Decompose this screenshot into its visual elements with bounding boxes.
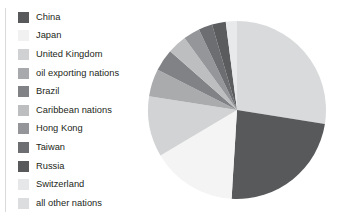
legend-item[interactable]: Brazil bbox=[6, 82, 136, 101]
legend-item-label: all other nations bbox=[36, 198, 102, 209]
legend-item-label: Caribbean nations bbox=[36, 105, 112, 116]
legend-item[interactable]: Japan bbox=[6, 27, 136, 46]
legend-swatch-icon bbox=[18, 68, 29, 79]
legend-swatch-icon bbox=[18, 12, 29, 23]
legend-swatch-icon bbox=[18, 179, 29, 190]
pie-chart-figure: China Japan United Kingdom oil exporting… bbox=[0, 0, 342, 219]
pie-slice[interactable] bbox=[232, 110, 325, 199]
legend-item-label: oil exporting nations bbox=[36, 68, 119, 79]
legend-item[interactable]: oil exporting nations bbox=[6, 64, 136, 83]
pie-chart bbox=[140, 12, 336, 208]
legend-item[interactable]: China bbox=[6, 8, 136, 27]
legend-item-label: China bbox=[36, 12, 60, 23]
legend-item-label: United Kingdom bbox=[36, 49, 102, 60]
legend-item-label: Japan bbox=[36, 30, 61, 41]
pie-slice[interactable] bbox=[237, 21, 326, 124]
legend-item-label: Russia bbox=[36, 161, 65, 172]
legend-swatch-icon bbox=[18, 49, 29, 60]
legend-item-label: Brazil bbox=[36, 86, 59, 97]
legend-swatch-icon bbox=[18, 86, 29, 97]
legend-swatch-icon bbox=[18, 142, 29, 153]
legend-item-label: Hong Kong bbox=[36, 123, 83, 134]
legend-item[interactable]: all other nations bbox=[6, 194, 136, 213]
legend-item-label: Taiwan bbox=[36, 142, 65, 153]
legend-swatch-icon bbox=[18, 30, 29, 41]
legend-swatch-icon bbox=[18, 105, 29, 116]
pie-svg bbox=[140, 12, 336, 208]
legend-item[interactable]: Taiwan bbox=[6, 138, 136, 157]
legend-swatch-icon bbox=[18, 123, 29, 134]
legend-item[interactable]: Caribbean nations bbox=[6, 101, 136, 120]
legend-swatch-icon bbox=[18, 161, 29, 172]
legend-swatch-icon bbox=[18, 198, 29, 209]
chart-legend: China Japan United Kingdom oil exporting… bbox=[5, 8, 136, 212]
legend-item[interactable]: Russia bbox=[6, 157, 136, 176]
legend-item[interactable]: Hong Kong bbox=[6, 120, 136, 139]
legend-item[interactable]: Switzerland bbox=[6, 175, 136, 194]
legend-item[interactable]: United Kingdom bbox=[6, 45, 136, 64]
pie-slice-group bbox=[148, 21, 326, 199]
legend-item-label: Switzerland bbox=[36, 179, 84, 190]
